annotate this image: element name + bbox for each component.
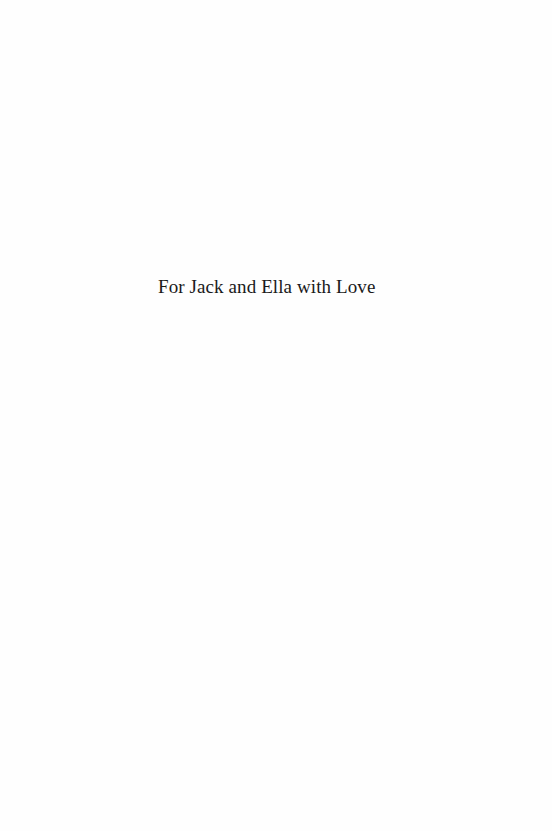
dedication-text: For Jack and Ella with Love <box>158 276 375 298</box>
book-page: For Jack and Ella with Love <box>0 0 552 831</box>
